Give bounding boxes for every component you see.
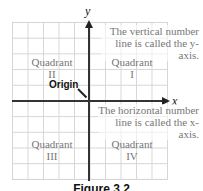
quadrant-2: Quadrant II — [27, 56, 77, 80]
quadrant-1-word: Quadrant — [107, 56, 157, 68]
quadrant-3-word: Quadrant — [27, 138, 77, 150]
x-axis — [12, 100, 164, 102]
x-axis-note-line2: line is called the x-axis. — [98, 116, 199, 140]
x-axis-note: The horizontal number line is called the… — [98, 104, 199, 140]
x-axis-note-line1: The horizontal number — [98, 104, 199, 116]
quadrant-4-numeral: IV — [107, 150, 157, 162]
y-axis-arrow-icon — [85, 20, 93, 28]
y-axis-label: y — [85, 4, 90, 19]
quadrant-4-word: Quadrant — [107, 138, 157, 150]
y-axis-note-line1: The vertical number — [101, 25, 199, 37]
quadrant-2-word: Quadrant — [27, 56, 77, 68]
quadrant-1: Quadrant I — [107, 56, 157, 80]
y-axis — [88, 24, 90, 181]
quadrant-1-numeral: I — [107, 68, 157, 80]
quadrant-3-numeral: III — [27, 150, 77, 162]
quadrant-3: Quadrant III — [27, 138, 77, 162]
figure-caption: Figure 3.2 — [0, 182, 203, 191]
origin-label: Origin — [49, 79, 78, 90]
quadrant-4: Quadrant IV — [107, 138, 157, 162]
